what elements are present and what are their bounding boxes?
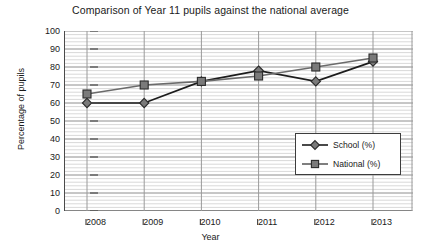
chart-title: Comparison of Year 11 pupils against the…: [0, 4, 421, 16]
grid-major-lines: [65, 31, 413, 211]
legend-marker-diamond-icon: [301, 139, 329, 151]
x-axis-ticks: [64, 211, 412, 217]
y-axis-ticks: [56, 31, 64, 211]
legend-marker-square-icon: [301, 158, 329, 170]
legend-label-national: National (%): [333, 159, 380, 169]
chart-figure: Comparison of Year 11 pupils against the…: [0, 0, 421, 251]
y-axis-title: Percentage of pupils: [16, 44, 26, 174]
legend-entry-national: National (%): [301, 156, 380, 172]
legend-label-school: School (%): [333, 140, 375, 150]
x-axis-title: Year: [0, 232, 421, 242]
plot-canvas: [65, 31, 413, 211]
plot-area: [64, 31, 412, 211]
y-axis-tick-labels: 0102030405060708090100: [26, 31, 60, 211]
chart-legend: School (%) National (%): [295, 133, 401, 175]
legend-entry-school: School (%): [301, 137, 375, 153]
